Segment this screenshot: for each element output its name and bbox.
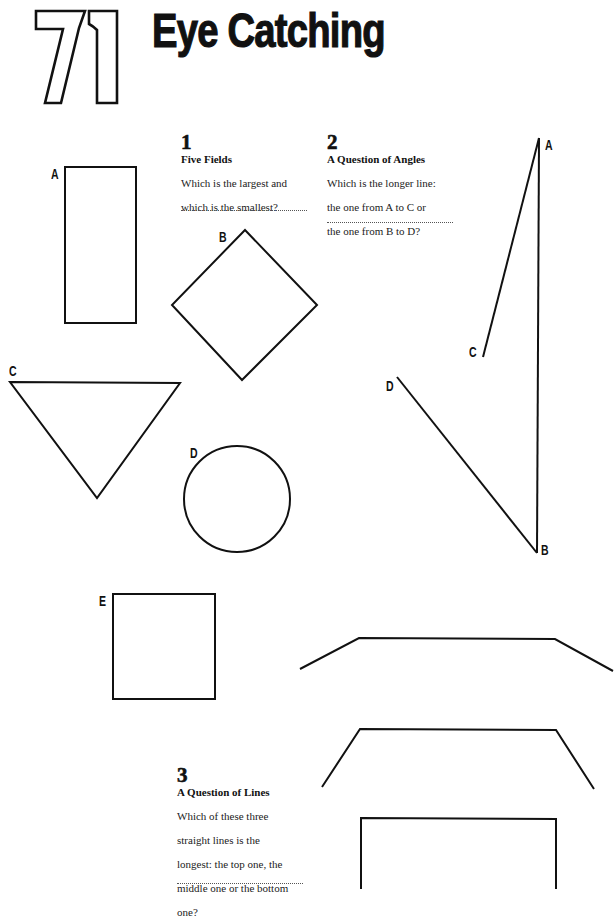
line-bottom	[361, 818, 556, 889]
shape-b-diamond	[172, 230, 317, 380]
angle-label-a: A	[545, 137, 553, 152]
line-a-to-b	[537, 138, 539, 553]
angle-label-b: B	[541, 542, 549, 557]
line-d-to-b	[397, 377, 537, 553]
label-a: A	[51, 166, 59, 181]
angle-label-c: C	[469, 344, 477, 359]
label-d: D	[190, 445, 198, 460]
label-e: E	[99, 593, 106, 608]
line-a-to-c	[483, 138, 539, 357]
angle-label-d: D	[386, 378, 394, 393]
shape-d-circle	[184, 446, 290, 552]
shape-a-rectangle	[65, 167, 136, 323]
shape-e-square	[113, 594, 215, 699]
label-c: C	[9, 363, 17, 378]
shape-c-triangle	[10, 382, 180, 498]
label-b: B	[219, 229, 227, 244]
line-top	[300, 638, 613, 671]
line-middle	[322, 729, 594, 789]
